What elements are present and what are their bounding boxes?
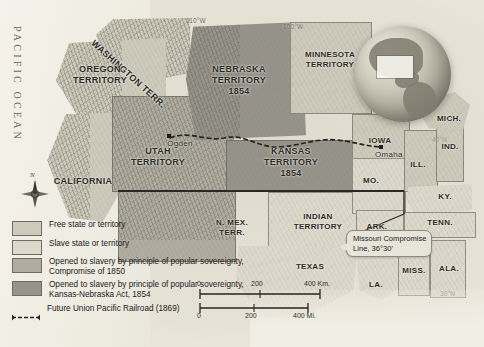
legend-label-free-state: Free state or territory — [49, 220, 125, 230]
legend-swatch-free-state — [12, 221, 42, 236]
scale-mi-400: 400 Mi. — [293, 312, 316, 319]
legend-label-union-pacific-railroad: Future Union Pacific Railroad (1869) — [47, 302, 179, 314]
region-nebraska-territory — [186, 22, 306, 140]
legend-swatch-railroad-icon — [12, 307, 40, 314]
region-kentucky — [406, 184, 472, 214]
legend-item-free-state: Free state or territory — [12, 220, 262, 236]
callout-line-2: Line, 36°30' — [353, 244, 426, 254]
map-legend: Free state or territory Slave state or t… — [12, 220, 262, 317]
scale-km-400: 400 Km. — [304, 280, 330, 287]
ogden-city-dot — [167, 134, 171, 138]
south-america-shape — [403, 82, 437, 120]
legend-label-kansas-nebraska-1854: Opened to slavery by principle of popula… — [49, 280, 262, 300]
legend-swatch-kansas-nebraska-1854 — [12, 281, 42, 296]
historical-map: PACIFIC OCEAN N 110°W 100°W 40°N 30°N WA… — [0, 0, 484, 347]
missouri-compromise-callout: Missouri Compromise Line, 36°30' — [346, 230, 432, 257]
legend-label-slave-state: Slave state or territory — [49, 239, 129, 249]
region-kansas-territory — [226, 140, 354, 192]
region-indiana — [436, 126, 464, 182]
omaha-city-dot — [379, 145, 383, 149]
legend-label-popular-sovereignty-1850: Opened to slavery by principle of popula… — [49, 257, 262, 277]
region-missouri — [352, 158, 406, 214]
compass-star-icon — [18, 172, 52, 214]
compass-rose: N — [18, 172, 52, 214]
callout-line-1: Missouri Compromise — [353, 234, 426, 244]
legend-item-popular-sovereignty-1850: Opened to slavery by principle of popula… — [12, 257, 262, 277]
legend-item-kansas-nebraska-1854: Opened to slavery by principle of popula… — [12, 280, 262, 300]
highlight-region-box — [377, 56, 413, 78]
legend-swatch-popular-sovereignty-1850 — [12, 258, 42, 273]
compass-north-label: N — [30, 171, 35, 179]
legend-swatch-slave-state — [12, 240, 42, 255]
legend-item-union-pacific-railroad: Future Union Pacific Railroad (1869) — [12, 302, 262, 314]
region-illinois — [404, 130, 438, 192]
globe-inset — [355, 26, 451, 122]
legend-item-slave-state: Slave state or territory — [12, 239, 262, 255]
